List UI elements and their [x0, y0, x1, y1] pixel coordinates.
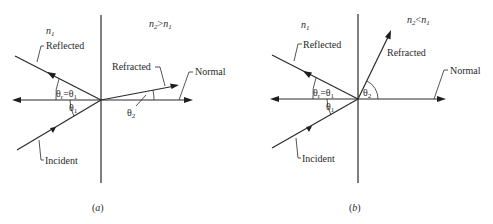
incident-leader — [39, 140, 44, 160]
panel-a: n1 n2>n1 Reflected Refracted Normal Inci… — [12, 15, 226, 214]
caption-b: (b) — [349, 202, 361, 214]
reflected-arrow-icon — [47, 72, 56, 79]
normal-leader — [434, 70, 448, 99]
incident-label: Incident — [302, 153, 335, 164]
normal-right-arrow-icon — [437, 96, 446, 102]
refracted-label: Refracted — [387, 47, 426, 58]
reflection-angle-label: θr=θ1 — [313, 87, 335, 100]
medium-n1-label: n1 — [301, 19, 310, 32]
refraction-diagram: n1 n2>n1 Reflected Refracted Normal Inci… — [0, 0, 493, 224]
reflected-label: Reflected — [303, 39, 341, 50]
reflected-arrow-icon — [303, 71, 312, 78]
incidence-angle-label: θ1 — [326, 101, 335, 114]
normal-right-arrow-icon — [184, 97, 193, 103]
refracted-ray — [101, 86, 175, 100]
panel-b: n1 n2<n1 Reflected Refracted Normal Inci… — [270, 14, 481, 214]
incident-leader — [296, 138, 301, 158]
refracted-arrow-icon — [385, 30, 391, 40]
incident-ray — [272, 99, 358, 148]
normal-label: Normal — [195, 66, 226, 77]
incidence-angle-label: θ1 — [69, 102, 78, 115]
normal-label: Normal — [450, 65, 481, 76]
reflected-label: Reflected — [46, 40, 84, 51]
medium-n2-label: n2>n1 — [149, 18, 172, 31]
refraction-angle-label: θ2 — [363, 87, 372, 100]
normal-left-arrow-icon — [12, 97, 21, 103]
reflected-leader — [294, 44, 302, 61]
normal-leader — [179, 72, 193, 100]
reflection-angle-label: θr=θ1 — [56, 88, 78, 101]
refracted-leader — [155, 67, 165, 86]
incident-arrow-icon — [306, 126, 312, 132]
medium-n1-label: n1 — [46, 25, 55, 38]
refracted-arrow-icon — [170, 84, 179, 90]
medium-n2-label: n2<n1 — [407, 14, 430, 27]
refraction-angle-label: θ2 — [127, 107, 136, 120]
reflected-leader — [37, 46, 44, 62]
refraction-angle-arc — [153, 90, 154, 100]
normal-left-arrow-icon — [270, 96, 279, 102]
incident-label: Incident — [45, 155, 78, 166]
incident-ray — [17, 100, 101, 150]
caption-a: (a) — [92, 202, 104, 214]
refracted-label: Refracted — [112, 61, 151, 72]
